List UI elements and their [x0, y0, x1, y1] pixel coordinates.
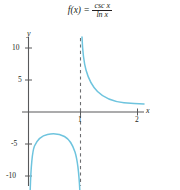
y-axis-label: y: [27, 29, 31, 38]
x-tick-label-2: 2: [135, 115, 139, 124]
x-tick-label-1: 1: [78, 115, 82, 124]
y-tick-label-10: 10: [12, 43, 20, 52]
y-tick-label-minus-5: -5: [11, 139, 17, 148]
curve-left-branch: [30, 134, 80, 190]
curve-right-branch: [82, 37, 144, 104]
figure-container: f(x)=csc xln x y x 10 5 -5 -10 1 2: [0, 0, 180, 190]
y-tick-label-minus-10: -10: [6, 171, 16, 180]
x-axis-label: x: [146, 106, 150, 115]
y-tick-label-5: 5: [18, 75, 22, 84]
